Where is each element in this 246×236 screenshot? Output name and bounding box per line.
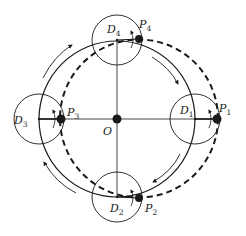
disc-center-d1-dot [194,118,196,120]
disc-center-d2-dot [116,196,118,198]
point-p4-dot [135,35,143,43]
label-o: O [103,125,112,138]
label-d1: D1 [179,104,194,119]
label-d4: D4 [106,23,121,38]
label-d2: D2 [109,202,124,217]
center-o-dot [113,115,122,124]
orbit-arrow-icon-top-left [43,45,72,78]
orbit-arrow-icon-bottom-left [44,162,76,193]
point-p1-dot [213,115,222,124]
label-p1: P1 [218,102,231,117]
label-p2: P2 [144,202,157,217]
label-d3: D3 [13,114,28,129]
disc-center-d3-dot [38,118,40,120]
label-p4: P4 [138,18,151,33]
disc-center-d4-dot [116,39,118,41]
label-p3: P3 [66,106,79,121]
orbit-arrow-icon-bottom-right [153,154,180,182]
point-p3-dot [57,115,66,124]
point-p2-dot [135,194,143,202]
orbit-arrow-icon-top-right [152,57,178,84]
rotating-disc-diagram: O D1 P1 D3 P3 D4 P4 D2 P2 [0,0,246,236]
